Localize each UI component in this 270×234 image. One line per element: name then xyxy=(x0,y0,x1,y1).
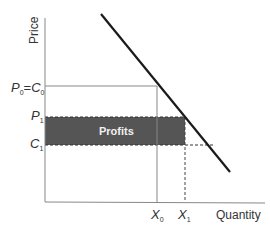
x1-label: X1 xyxy=(177,207,191,223)
x-axis-label: Quantity xyxy=(216,208,261,222)
x0-label: X0 xyxy=(150,207,164,223)
profits-label: Profits xyxy=(99,125,134,137)
demand-curve xyxy=(101,14,230,172)
profit-chart: Price P0=C0 P1 C1 Profits X0 X1 Quantity xyxy=(0,0,270,234)
p1-label: P1 xyxy=(31,108,44,124)
y-axis-label: Price xyxy=(27,16,41,44)
p0-c0-label: P0=C0 xyxy=(11,80,45,96)
x-axis xyxy=(45,202,265,203)
c1-label: C1 xyxy=(30,136,43,152)
